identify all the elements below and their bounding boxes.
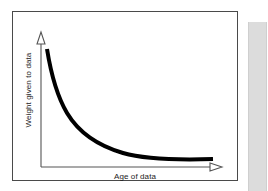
decay-curve-chart (13, 12, 239, 182)
y-axis-label: Weight given to data (25, 45, 33, 135)
chart-plot-area (13, 12, 239, 182)
weight-decay-curve (47, 49, 213, 159)
x-axis-label: Age of data (75, 173, 195, 181)
page-edge-band (248, 22, 267, 191)
x-axis-arrowhead-icon (210, 163, 222, 171)
figure-panel: Weight given to data Age of data (12, 11, 238, 181)
y-axis-arrowhead-icon (37, 32, 45, 44)
